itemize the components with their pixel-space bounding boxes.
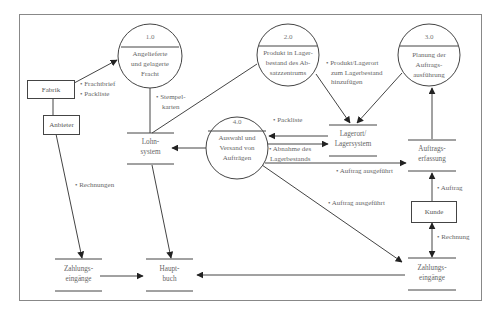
flow-label-auftrag-ausgefuehrt-2: • Auftrag ausgeführt xyxy=(328,199,385,209)
flow-label-produkt-line-3: hinzufügen xyxy=(326,78,383,88)
flow-label-produkt-lagerort: • Produkt/Lagerort zum Lagerbestand hinz… xyxy=(326,59,383,88)
flow-label-frachtbrief: • Frachtbrief • Packliste xyxy=(80,80,115,99)
store-lohnsystem: Lohn- system xyxy=(127,138,174,157)
flow-label-auftrag-ausgefuehrt-1: • Auftrag ausgeführt xyxy=(336,167,393,177)
flow-label-packliste-p4: • Packliste xyxy=(273,116,302,126)
store-zahlungseingaenge-right-line-2: eingänge xyxy=(408,274,456,284)
flow-label-abnahme-line-1: • Abnahme des xyxy=(269,145,311,155)
store-auftragserfassung: Auftrags- erfassung xyxy=(408,145,456,164)
process-2-line-3: satzzentrums xyxy=(254,68,322,78)
flow-anbieter-to-zahlungseingaenge xyxy=(56,134,82,258)
process-3-line-1: Planung der xyxy=(399,50,459,60)
entity-kunde: Kunde xyxy=(411,201,457,223)
flow-label-frachtbrief-line: • Frachtbrief xyxy=(80,80,115,90)
store-zahlungseingaenge-left-line-2: eingänge xyxy=(55,275,102,285)
process-1-number: 1.0 xyxy=(130,33,170,41)
flow-label-rechnung: • Rechnung xyxy=(437,233,470,243)
store-lagerort-line-1: Lagerort/ xyxy=(324,130,382,140)
store-auftragserfassung-line-1: Auftrags- xyxy=(408,145,456,155)
process-2-number: 2.0 xyxy=(268,33,308,41)
store-hauptbuch: Haupt- buch xyxy=(146,265,193,284)
flow-label-stempelkarten-line-1: • Stempel- xyxy=(156,93,185,103)
process-2-line-1: Produkt in Lager- xyxy=(254,48,322,58)
entity-anbieter: Anbieter xyxy=(43,115,80,135)
process-4-number: 4.0 xyxy=(217,118,257,126)
flow-label-rechnungen: • Rechnungen xyxy=(75,181,114,191)
store-hauptbuch-line-2: buch xyxy=(146,275,193,285)
process-4-label: Auswahl und Versand von Aufträgen xyxy=(207,133,267,163)
flow-label-produkt-line-2: zum Lagerbestand xyxy=(326,69,383,79)
flow-label-stempelkarten-line-2: karten xyxy=(156,103,185,113)
entity-fabrik: Fabrik xyxy=(27,80,75,99)
process-1-label: Angelieferte und gelagerte Fracht xyxy=(120,49,180,79)
process-4-line-3: Aufträgen xyxy=(207,153,267,163)
process-2-label: Produkt in Lager- bestand des Ab- satzze… xyxy=(254,48,322,78)
store-zahlungseingaenge-left: Zahlungs- eingänge xyxy=(55,265,102,284)
process-1-line-1: Angelieferte xyxy=(120,49,180,59)
store-zahlungseingaenge-left-line-1: Zahlungs- xyxy=(55,265,102,275)
store-zahlungseingaenge-right: Zahlungs- eingänge xyxy=(408,264,456,283)
flow-label-produkt-line-1: • Produkt/Lagerort xyxy=(326,59,383,69)
store-lohnsystem-line-2: system xyxy=(127,148,174,158)
process-2-line-2: bestand des Ab- xyxy=(254,58,322,68)
flow-label-abnahme: • Abnahme des Lagerbestands xyxy=(269,145,311,164)
store-auftragserfassung-line-2: erfassung xyxy=(408,155,456,165)
process-3-line-3: ausführung xyxy=(399,70,459,80)
flow-label-stempelkarten: • Stempel- karten xyxy=(156,93,185,112)
flow-label-auftrag: • Auftrag xyxy=(437,184,463,194)
store-zahlungseingaenge-right-line-1: Zahlungs- xyxy=(408,264,456,274)
flow-label-abnahme-line-2: Lagerbestands xyxy=(269,155,311,165)
process-3-number: 3.0 xyxy=(409,33,449,41)
process-4-line-1: Auswahl und xyxy=(207,133,267,143)
flow-lohnsystem-to-hauptbuch xyxy=(152,165,171,258)
store-hauptbuch-line-1: Haupt- xyxy=(146,265,193,275)
flow-label-packliste-line: • Packliste xyxy=(80,90,115,100)
flow-p4-to-zahlungseingaenge-right xyxy=(262,165,402,262)
process-3-label: Planung der Auftrags- ausführung xyxy=(399,50,459,80)
process-4-line-2: Versand von xyxy=(207,143,267,153)
process-3-line-2: Auftrags- xyxy=(399,60,459,70)
process-1-line-2: und gelagerte xyxy=(120,59,180,69)
process-1-line-3: Fracht xyxy=(120,69,180,79)
store-lohnsystem-line-1: Lohn- xyxy=(127,138,174,148)
store-lagerort: Lagerort/ Lagersystem xyxy=(324,130,382,149)
store-lagerort-line-2: Lagersystem xyxy=(324,140,382,150)
